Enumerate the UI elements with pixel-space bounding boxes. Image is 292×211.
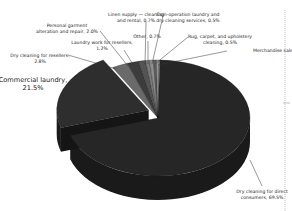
- label-commercial-laundry: Commercial laundry,21.5%: [0, 76, 67, 92]
- label-line: cleaning, 0.5%: [203, 40, 238, 45]
- label-laundry-work-for-resellers: Laundry work for resellers,1.2%: [71, 40, 133, 51]
- leader-line-linen-supply-cleaning-and-rental: [145, 22, 146, 64]
- label-coin-operation-laundry-and-dry-cleaning-services: Coin-operation laundry anddry cleaning s…: [156, 12, 220, 23]
- pie-chart: Dry cleaning for directconsumers, 69.5%C…: [0, 0, 292, 211]
- label-rug-carpet-and-upholstery-cleaning: Rug, carpet, and upholsterycleaning, 0.5…: [188, 34, 252, 45]
- label-line: Coin-operation laundry and: [156, 12, 219, 17]
- label-line: consumers, 69.5%: [241, 195, 284, 200]
- label-line: Other, 0.7%: [133, 34, 161, 39]
- label-dry-cleaning-for-resellers: Dry cleaning for resellers,2.8%: [10, 53, 70, 64]
- label-line: 1.2%: [96, 46, 108, 51]
- label-other: Other, 0.7%: [133, 34, 161, 39]
- label-line: Rug, carpet, and upholstery: [188, 34, 252, 39]
- label-line: Dry cleaning for resellers,: [10, 53, 70, 58]
- label-line: 2.8%: [34, 59, 46, 64]
- label-line: dry cleaning services, 0.5%: [156, 18, 220, 23]
- label-line: Personal garment: [47, 23, 88, 28]
- label-line: Merchandise sales, 0.1%: [253, 48, 292, 53]
- label-line: and rental, 0.7%: [117, 18, 156, 23]
- label-line: alteration and repair, 2.0%: [36, 29, 99, 34]
- label-dry-cleaning-for-direct-consumers: Dry cleaning for directconsumers, 69.5%: [236, 189, 288, 200]
- label-merchandise-sales: Merchandise sales, 0.1%: [253, 48, 292, 53]
- label-line: 21.5%: [23, 84, 44, 92]
- label-line: Laundry work for resellers,: [71, 40, 133, 45]
- label-personal-garment-alteration-and-repair: Personal garmentalteration and repair, 2…: [36, 23, 99, 34]
- leader-line-dry-cleaning-for-direct-consumers: [250, 160, 262, 186]
- leader-line-coin-operation-laundry-and-dry-cleaning-services: [152, 16, 163, 64]
- label-line: Dry cleaning for direct: [236, 189, 288, 194]
- page-edge-rule: [283, 10, 290, 211]
